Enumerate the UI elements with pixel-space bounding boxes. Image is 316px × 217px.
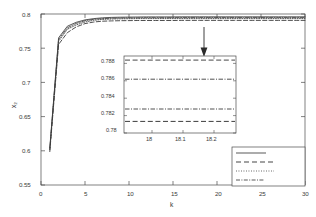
figure-canvas: 0.8 0.75 0.7 0.65 0.6 0.55 0 5 10 15 20 … [0, 0, 316, 217]
inset-annotation-arrow [201, 27, 208, 57]
plot-svg [0, 0, 316, 217]
